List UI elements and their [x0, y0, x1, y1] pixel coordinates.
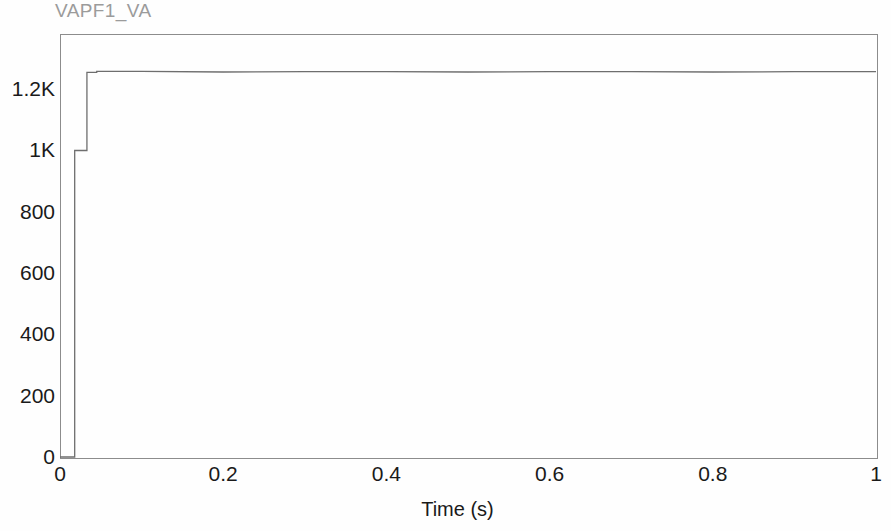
- x-tick-label: 0.6: [535, 462, 564, 486]
- x-axis-tick-labels: 00.20.40.60.81: [0, 462, 891, 492]
- series-title: VAPF1_VA: [55, 0, 151, 22]
- x-tick-label: 0.2: [209, 462, 238, 486]
- y-tick-label: 600: [3, 262, 55, 283]
- y-tick-label: 400: [3, 323, 55, 344]
- x-axis-title-text: Time (s): [421, 498, 494, 520]
- x-tick-label: 0: [54, 462, 66, 486]
- x-axis-title: Time (s): [0, 497, 891, 521]
- y-tick-label: 1.2K: [3, 78, 55, 99]
- x-tick-label: 0.8: [698, 462, 727, 486]
- plot-area: [60, 34, 877, 458]
- x-tick-label: 1: [870, 462, 882, 486]
- y-tick-label: 1K: [3, 139, 55, 160]
- data-trace-vapf1-va: [60, 71, 876, 457]
- chart-figure: VAPF1_VA 02004006008001K1.2K 00.20.40.60…: [0, 0, 891, 531]
- y-tick-label: 800: [3, 201, 55, 222]
- x-tick-label: 0.4: [372, 462, 401, 486]
- y-axis-tick-labels: 02004006008001K1.2K: [0, 0, 55, 531]
- y-tick-label: 200: [3, 385, 55, 406]
